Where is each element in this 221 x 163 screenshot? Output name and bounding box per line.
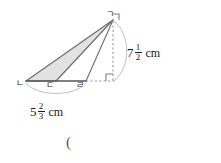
height-fraction: 1 2	[135, 43, 142, 63]
base-dimension-label: 5 2 3 cm	[30, 102, 63, 122]
base-fraction-numerator: 2	[38, 102, 45, 111]
trailing-parenthesis: (	[66, 135, 71, 150]
vertex-label-apex: ㄱ	[106, 10, 114, 19]
base-fraction: 2 3	[38, 102, 45, 122]
base-mixed-number: 5 2 3 cm	[30, 102, 63, 122]
vertex-label-base-right: ㄹ	[76, 81, 84, 90]
vertex-label-base-left: ㄴ	[16, 79, 24, 88]
height-fraction-numerator: 1	[135, 43, 142, 52]
base-whole-part: 5	[30, 105, 37, 118]
height-whole-part: 7	[127, 46, 134, 59]
base-unit: cm	[49, 106, 64, 118]
vertex-label-base-mid: ㄷ	[46, 81, 54, 90]
height-measure-arc	[114, 21, 127, 81]
height-unit: cm	[146, 47, 161, 59]
height-mixed-number: 7 1 2 cm	[127, 43, 160, 63]
geometry-canvas	[0, 0, 221, 163]
height-dimension-label: 7 1 2 cm	[127, 43, 160, 63]
geometry-figure: ㄱ ㄴ ㄷ ㄹ 7 1 2 cm 5 2 3 cm (	[0, 0, 221, 163]
base-fraction-denominator: 3	[38, 112, 45, 121]
height-fraction-denominator: 2	[135, 53, 142, 62]
right-angle-marker	[106, 74, 113, 81]
